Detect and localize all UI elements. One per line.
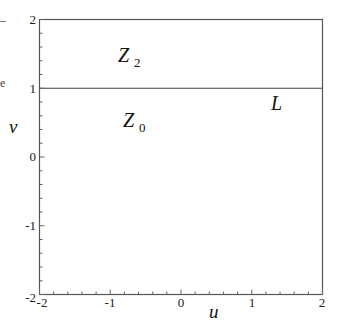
y-axis-ticks [40,20,45,295]
x-tick-0: 0 [178,295,185,310]
x-tick-1: 1 [249,295,256,310]
x-axis-ticks [40,290,323,295]
region-label-z0: Z 0 [123,109,146,135]
x-tick-labels: -2 -1 0 1 2 [37,295,326,310]
x-tick-neg1: -1 [105,295,116,310]
y-tick-2: 2 [30,12,37,27]
y-axis-label: v [9,116,18,137]
y-tick-neg2: -2 [25,290,36,305]
y-tick-0: 0 [30,149,37,164]
stray-fragment-dash: – [0,13,7,27]
x-tick-2: 2 [319,295,326,310]
region-label-z2: Z 2 [118,44,141,70]
line-label-L: L [270,92,282,114]
x-axis-label: u [209,301,219,322]
svg-text:Z: Z [123,109,135,131]
x-tick-neg2: -2 [37,295,48,310]
stray-fragment-e: e [0,76,5,90]
plot-frame [40,20,323,295]
y-tick-1: 1 [30,81,37,96]
chart-figure: – e 2 1 0 -1 -2 -2 -1 0 1 2 v u Z 2 Z 0 … [0,0,339,328]
y-tick-labels: 2 1 0 -1 -2 [25,12,36,305]
svg-text:2: 2 [134,55,141,70]
svg-text:Z: Z [118,44,130,66]
svg-text:0: 0 [139,120,146,135]
y-tick-neg1: -1 [25,218,36,233]
